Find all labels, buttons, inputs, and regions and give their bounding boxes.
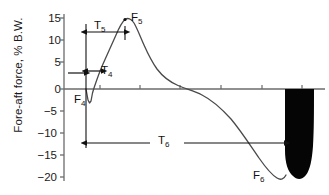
- annotation-f5-letter: F: [131, 11, 138, 23]
- annotation-f6: F6: [253, 169, 264, 184]
- annotation-t4-letter: T: [101, 64, 108, 76]
- annotation-t6: T6: [155, 134, 172, 149]
- plot-area: [0, 0, 329, 195]
- annotation-t6-subscript: 6: [165, 140, 169, 149]
- annotation-t5-subscript: 5: [101, 25, 105, 34]
- annotation-f4: F4: [74, 93, 85, 108]
- annotation-f6-letter: F: [253, 169, 260, 181]
- figure-container: Fore-aft force, % B.W. 15 10 5 0 −5 −10 …: [0, 0, 329, 195]
- annotation-f5: F5: [131, 11, 142, 26]
- filled-impulse-region: [285, 89, 314, 179]
- force-curve: [86, 19, 286, 180]
- f5-peak-marker: [123, 18, 126, 21]
- annotation-t5: T5: [94, 19, 105, 34]
- annotation-t4-subscript: 4: [108, 70, 112, 79]
- annotation-f5-subscript: 5: [138, 17, 142, 26]
- annotation-f4-subscript: 4: [81, 99, 85, 108]
- annotation-f4-letter: F: [74, 93, 81, 105]
- annotation-t6-letter: T: [158, 134, 165, 146]
- annotation-t4: T4: [101, 64, 112, 79]
- annotation-f6-subscript: 6: [260, 175, 264, 184]
- annotation-t5-letter: T: [94, 19, 101, 31]
